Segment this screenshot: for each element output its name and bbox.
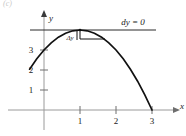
delta-y-annotation-label: Δy [65,34,74,42]
x-axis-label: x [179,101,184,111]
x-axis-arrow-icon [173,107,180,113]
y-tick-label-3: 3 [29,45,34,55]
tangent-annotation-label: dy = 0 [121,17,145,27]
x-tick-label-3: 3 [150,116,155,126]
x-tick-label-1: 1 [78,116,83,126]
y-axis-arrow-icon [41,10,47,17]
graph-plot: x y 3 2 1 1 2 3 dy = 0 Δy [0,0,186,136]
y-tick-label-1: 1 [29,85,34,95]
figure-container: (c) x y 3 2 1 1 2 3 dy = 0 [0,0,186,136]
x-tick-label-2: 2 [114,116,119,126]
y-axis-label: y [48,13,53,23]
